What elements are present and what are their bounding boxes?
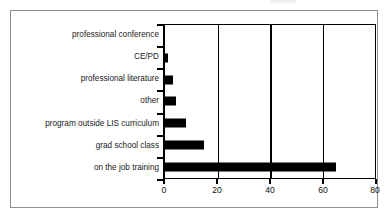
value-axis-label: 20 [212, 186, 222, 195]
value-axis-tick [216, 179, 218, 184]
category-label-row: on the job training [18, 157, 159, 179]
value-axis-tick [375, 179, 377, 184]
bar-on-the-job-training [165, 162, 336, 171]
category-label: on the job training [94, 164, 159, 172]
plot-area [163, 24, 376, 179]
value-axis-label: 80 [370, 186, 380, 195]
value-axis-labels: 0 20 40 60 80 [0, 186, 387, 200]
category-label: other [140, 97, 159, 105]
cropped-text-artifact [270, 0, 296, 5]
value-axis-label: 0 [162, 186, 167, 195]
bar-row [165, 91, 375, 113]
bar-row [165, 156, 375, 178]
category-label-row: program outside LIS curriculum [18, 113, 159, 135]
category-label-row: grad school class [18, 135, 159, 157]
bar-row [165, 69, 375, 91]
category-label: CE/PD [134, 53, 159, 61]
category-label: professional literature [81, 75, 159, 83]
bar-row [165, 112, 375, 134]
bar-chart-figure: professional conference CE/PD profession… [0, 0, 387, 215]
bar-row [165, 47, 375, 69]
bar-ce-pd [165, 53, 168, 62]
bar-row [165, 134, 375, 156]
bar-program-outside-lis-curriculum [165, 119, 186, 128]
bar-rows [165, 25, 375, 178]
value-axis-tick [269, 179, 271, 184]
bar-professional-literature [165, 75, 173, 84]
category-axis-labels: professional conference CE/PD profession… [18, 24, 159, 179]
bar-other [165, 97, 176, 106]
bar-row [165, 25, 375, 47]
category-label-row: other [18, 90, 159, 112]
category-label-row: professional conference [18, 24, 159, 46]
bar-grad-school-class [165, 141, 204, 150]
category-label: program outside LIS curriculum [45, 120, 159, 128]
category-label: professional conference [72, 31, 159, 39]
value-axis-tick [163, 179, 165, 184]
value-axis-label: 40 [265, 186, 275, 195]
category-label-row: professional literature [18, 68, 159, 90]
value-axis-label: 60 [318, 186, 328, 195]
category-label-row: CE/PD [18, 46, 159, 68]
value-axis-tick [322, 179, 324, 184]
category-label: grad school class [96, 142, 159, 150]
